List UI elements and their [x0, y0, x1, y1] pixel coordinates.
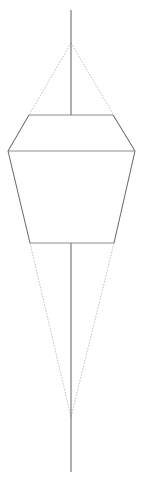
body-left-edge — [8, 151, 30, 243]
figure-canvas: Bicone line diagram Vertical axis with a… — [0, 0, 142, 481]
bicone-diagram-svg — [0, 0, 142, 481]
cone-bottom-left-edge — [30, 243, 71, 417]
neck-right-edge — [113, 115, 135, 151]
body-right-edge — [114, 151, 135, 243]
cone-bottom-right-edge — [71, 243, 114, 417]
neck-left-edge — [8, 115, 29, 151]
